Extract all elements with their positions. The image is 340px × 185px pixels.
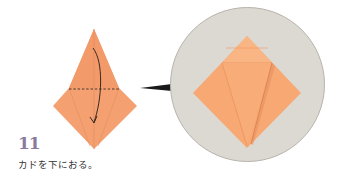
result-photo	[170, 7, 325, 162]
step-number: 11	[18, 133, 40, 153]
folded-paper-photo	[171, 8, 324, 161]
step-instruction: カドを下におる。	[18, 157, 98, 171]
